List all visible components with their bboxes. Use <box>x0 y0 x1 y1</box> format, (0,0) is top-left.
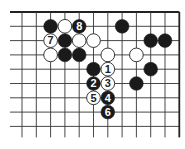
move-number-label: 8 <box>76 20 82 32</box>
black-stone <box>87 62 101 76</box>
black-stone-icon <box>72 48 86 62</box>
black-stone <box>58 48 72 62</box>
black-stone <box>58 34 72 48</box>
black-stone-icon <box>115 19 129 33</box>
white-stone-move-7: 7 <box>44 34 58 48</box>
white-stone <box>101 48 115 62</box>
move-number-label: 1 <box>105 63 111 75</box>
black-stone <box>44 19 58 33</box>
move-number-label: 6 <box>105 106 111 118</box>
white-stone-icon <box>87 34 101 48</box>
black-stone-icon <box>158 34 172 48</box>
white-stone-icon <box>72 34 86 48</box>
white-stone <box>58 19 72 33</box>
black-stone-icon <box>87 62 101 76</box>
black-stone-icon <box>58 48 72 62</box>
black-stone <box>130 77 144 91</box>
black-stone-icon <box>58 34 72 48</box>
black-stone-icon <box>130 77 144 91</box>
move-number-label: 3 <box>105 77 111 89</box>
black-stone-move-4: 4 <box>101 91 115 105</box>
black-stone <box>144 62 158 76</box>
black-stone-icon <box>144 34 158 48</box>
white-stone-move-5: 5 <box>87 91 101 105</box>
white-stone-icon <box>58 19 72 33</box>
black-stone-icon <box>44 19 58 33</box>
go-board-diagram: 87123546 <box>0 0 185 149</box>
white-stone <box>72 34 86 48</box>
move-number-label: 2 <box>90 77 96 89</box>
white-stone <box>130 48 144 62</box>
black-stone <box>158 34 172 48</box>
black-stone-move-6: 6 <box>101 105 115 119</box>
move-number-label: 7 <box>48 34 54 46</box>
black-stone-move-8: 8 <box>72 19 86 33</box>
move-number-label: 4 <box>105 92 112 104</box>
black-stone <box>115 19 129 33</box>
white-stone-icon <box>44 48 58 62</box>
board-canvas: 87123546 <box>0 0 185 149</box>
white-stone-icon <box>130 48 144 62</box>
white-stone <box>87 34 101 48</box>
white-stone <box>44 48 58 62</box>
black-stone <box>72 48 86 62</box>
white-stone-icon <box>101 48 115 62</box>
white-stone-move-1: 1 <box>101 62 115 76</box>
white-stone-move-3: 3 <box>101 77 115 91</box>
move-number-label: 5 <box>90 92 96 104</box>
black-stone-icon <box>144 62 158 76</box>
black-stone <box>144 34 158 48</box>
black-stone-move-2: 2 <box>87 77 101 91</box>
